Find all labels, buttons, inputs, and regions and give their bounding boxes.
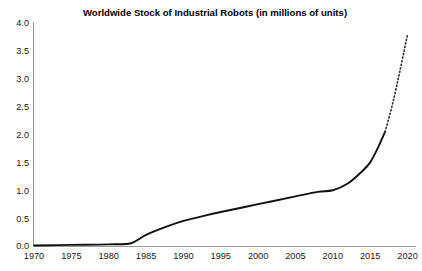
y-tick-label: 2.0: [16, 130, 29, 140]
x-tick-label: 1990: [173, 251, 193, 261]
y-tick-label: 3.5: [16, 46, 29, 56]
projection-line: [385, 34, 407, 132]
x-tick-label: 1975: [61, 251, 81, 261]
y-tick-label: 2.5: [16, 102, 29, 112]
x-tick-label: 1995: [211, 251, 231, 261]
chart-title: Worldwide Stock of Industrial Robots (in…: [83, 7, 347, 18]
y-tick-label: 1.0: [16, 186, 29, 196]
actual-stock-line: [34, 132, 385, 246]
chart-svg: Worldwide Stock of Industrial Robots (in…: [0, 0, 422, 271]
x-axis-tick-labels: 1970197519801985199019952000200520102015…: [24, 251, 418, 261]
chart-container: Worldwide Stock of Industrial Robots (in…: [0, 0, 422, 271]
y-tick-label: 4.0: [16, 18, 29, 28]
x-tick-label: 1970: [24, 251, 44, 261]
x-tick-label: 2015: [360, 251, 380, 261]
x-tick-label: 1980: [98, 251, 118, 261]
y-tick-label: 1.5: [16, 158, 29, 168]
y-tick-label: 0.0: [16, 241, 29, 251]
x-tick-label: 2005: [285, 251, 305, 261]
x-tick-label: 2000: [248, 251, 268, 261]
y-tick-label: 3.0: [16, 74, 29, 84]
data-series-group: [34, 34, 408, 245]
x-tick-label: 2010: [323, 251, 343, 261]
y-axis-tick-labels: 0.00.51.01.52.02.53.03.54.0: [16, 18, 29, 251]
x-tick-label: 2020: [397, 251, 417, 261]
x-tick-label: 1985: [136, 251, 156, 261]
y-tick-label: 0.5: [16, 214, 29, 224]
